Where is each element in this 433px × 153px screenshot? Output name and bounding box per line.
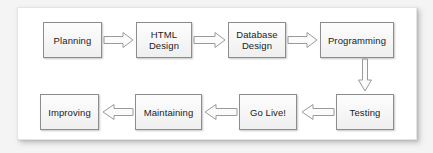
arrow-testing-to-go-live: [302, 105, 334, 120]
node-programming[interactable]: Programming: [320, 22, 394, 58]
arrow-go-live-to-maintaining: [205, 105, 237, 120]
arrow-maintaining-to-improving: [103, 105, 133, 120]
node-planning[interactable]: Planning: [43, 22, 102, 58]
diagram-screenshot: Planning HTML Design Database Design Pro…: [0, 0, 433, 153]
node-html-design[interactable]: HTML Design: [136, 22, 192, 58]
node-testing[interactable]: Testing: [336, 94, 394, 130]
arrow-programming-to-testing: [359, 59, 372, 91]
node-maintaining[interactable]: Maintaining: [135, 94, 202, 130]
node-go-live[interactable]: Go Live!: [239, 94, 297, 130]
arrow-html-design-to-database-design: [194, 33, 225, 48]
node-database-design[interactable]: Database Design: [228, 22, 286, 58]
arrow-database-design-to-programming: [288, 33, 317, 48]
node-improving[interactable]: Improving: [40, 94, 99, 130]
arrow-planning-to-html-design: [104, 33, 133, 48]
